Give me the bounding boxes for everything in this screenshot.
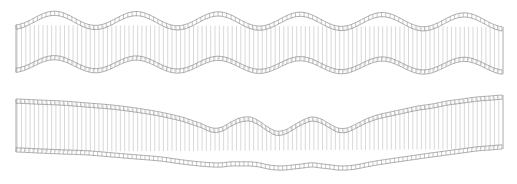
top-edge-band <box>16 95 502 135</box>
top-edge-band-inner-rail <box>16 15 502 31</box>
lower-wavy-mesh-band <box>16 95 503 170</box>
wavy-mesh-canvas <box>0 0 517 184</box>
bottom-edge-band-ticks <box>16 56 502 75</box>
top-edge-band-ticks <box>16 11 502 31</box>
top-edge-band-fill <box>16 95 502 131</box>
bottom-edge-band <box>16 145 502 170</box>
top-edge-band <box>16 11 502 31</box>
bottom-edge-band-outer-rail <box>16 60 502 74</box>
upper-wavy-mesh-band <box>16 11 503 74</box>
shape-layer <box>16 11 503 170</box>
wavy-mesh-scene <box>0 0 517 184</box>
bottom-edge-band-inner-rail <box>16 56 502 70</box>
bottom-edge-band <box>16 56 502 75</box>
vertical-hatch-lines <box>17 12 499 73</box>
top-edge-band-outer-rail <box>16 11 502 27</box>
